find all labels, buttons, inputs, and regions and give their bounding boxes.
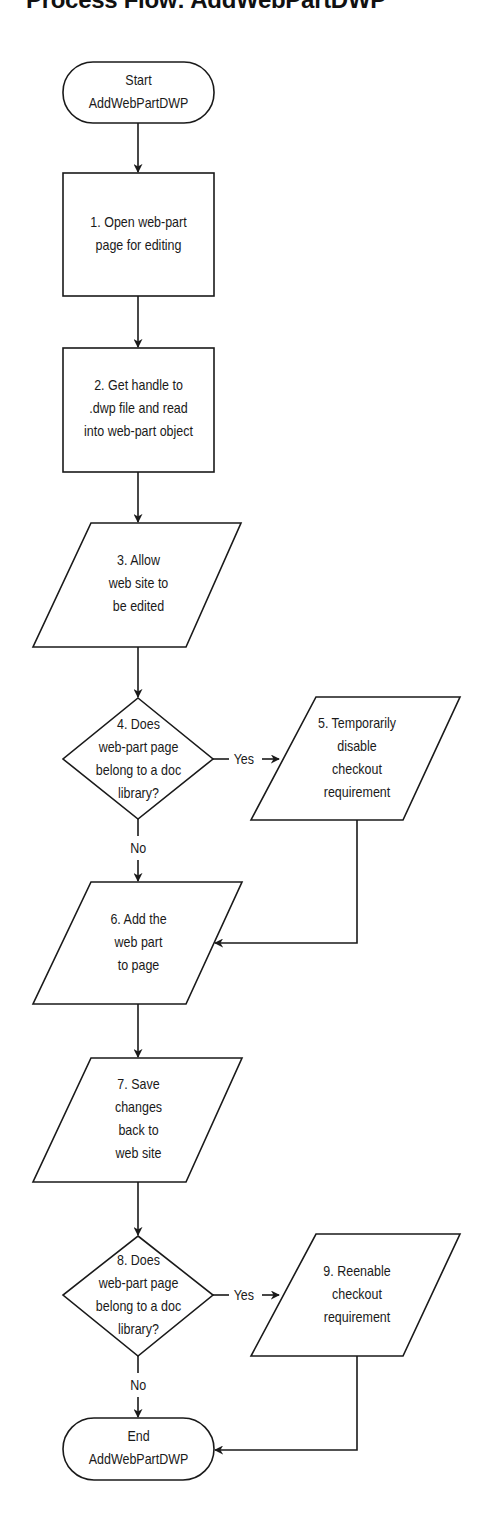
io-shape-9-label: 9. Reenable checkout requirement xyxy=(293,1260,422,1329)
edge-label-yes-8: Yes xyxy=(233,1287,255,1303)
io-shape-7-label: 7. Save changes back to web site xyxy=(74,1073,204,1165)
edge-label-yes-4: Yes xyxy=(233,751,255,767)
edge-label-no-4: No xyxy=(129,840,147,856)
edge-label-no-8: No xyxy=(129,1377,147,1393)
io-shape-3-label: 3. Allow web site to be edited xyxy=(74,549,204,618)
end-terminator-label: End AddWebPartDWP xyxy=(69,1425,207,1471)
process-box-2-label: 2. Get handle to .dwp file and read into… xyxy=(65,374,212,443)
io-shape-5-label: 5. Temporarily disable checkout requirem… xyxy=(293,712,422,804)
decision-4-label: 4. Does web-part page belong to a doc li… xyxy=(74,713,204,805)
io-shape-6-label: 6. Add the web part to page xyxy=(74,908,204,977)
decision-8-label: 8. Does web-part page belong to a doc li… xyxy=(74,1249,204,1341)
edge-9-to-end xyxy=(215,1356,357,1450)
process-box-1-label: 1. Open web-part page for editing xyxy=(69,211,207,257)
start-terminator-label: Start AddWebPartDWP xyxy=(69,69,207,115)
